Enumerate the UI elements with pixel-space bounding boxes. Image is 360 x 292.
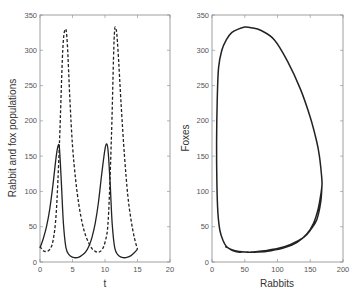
fox-population-line [40, 27, 138, 252]
y-tick-label: 50 [29, 222, 37, 231]
x-tick-label: 15 [133, 265, 141, 274]
y-tick-label: 200 [24, 116, 37, 125]
phase-portrait-line [217, 27, 322, 252]
left-plot-frame [40, 15, 170, 262]
right-y-ticks: 050100150200250300350 [196, 11, 343, 267]
y-tick-label: 0 [205, 258, 209, 267]
x-tick-label: 200 [337, 265, 350, 274]
y-tick-label: 200 [196, 116, 209, 125]
x-tick-label: 50 [241, 265, 249, 274]
y-tick-label: 100 [24, 187, 37, 196]
x-tick-label: 150 [304, 265, 317, 274]
y-tick-label: 350 [196, 11, 209, 20]
x-tick-label: 5 [70, 265, 74, 274]
y-tick-label: 300 [196, 46, 209, 55]
rabbit-population-line [40, 144, 138, 258]
left-y-label: Rabbit and fox populations [7, 79, 18, 197]
y-tick-label: 300 [24, 46, 37, 55]
x-tick-label: 10 [101, 265, 109, 274]
x-tick-label: 20 [166, 265, 174, 274]
right-x-ticks: 050100150200 [210, 15, 349, 274]
x-tick-label: 100 [271, 265, 284, 274]
right-plot: 050100150200250300350 050100150200 Rabbi… [180, 11, 349, 290]
y-tick-label: 250 [24, 81, 37, 90]
y-tick-label: 150 [24, 152, 37, 161]
right-x-label: Rabbits [260, 278, 294, 289]
y-tick-label: 0 [33, 258, 37, 267]
y-tick-label: 150 [196, 152, 209, 161]
x-tick-label: 0 [210, 265, 214, 274]
left-plot: 050100150200250300350 05101520 t Rabbit … [7, 11, 174, 290]
right-y-label: Foxes [180, 124, 191, 151]
left-x-label: t [104, 278, 107, 289]
y-tick-label: 100 [196, 187, 209, 196]
y-tick-label: 250 [196, 81, 209, 90]
right-plot-frame [212, 15, 343, 262]
y-tick-label: 350 [24, 11, 37, 20]
figure: 050100150200250300350 05101520 t Rabbit … [0, 0, 360, 292]
x-tick-label: 0 [38, 265, 42, 274]
y-tick-label: 50 [201, 222, 209, 231]
